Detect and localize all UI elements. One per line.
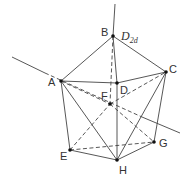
c2-axis <box>142 117 180 133</box>
point-group-label: D2d <box>120 29 139 45</box>
vertex-label-G: G <box>159 137 168 149</box>
point-group-subscript: 2d <box>130 36 139 45</box>
vertex-label-F: F <box>101 90 108 102</box>
vertex-label-H: H <box>119 164 127 176</box>
vertex-label-B: B <box>101 26 108 38</box>
edge-DC <box>117 72 166 83</box>
vertex-H <box>115 158 119 162</box>
hidden-edges <box>61 36 166 150</box>
hidden-edge-BF <box>110 36 113 104</box>
vertex-label-A: A <box>48 76 56 88</box>
edge-AB <box>61 36 113 81</box>
d2d-polyhedron-diagram: ABCDEFGH D2d <box>0 0 189 180</box>
edge-EH <box>70 150 117 160</box>
vertex-F <box>108 102 112 106</box>
diagram-svg: ABCDEFGH D2d <box>0 0 189 180</box>
edge-AD <box>61 81 117 83</box>
hidden-edge-EF <box>70 104 110 150</box>
vertex-label-E: E <box>60 150 67 162</box>
vertex-D <box>115 81 119 85</box>
edge-BD <box>113 36 117 83</box>
vertex-G <box>152 140 156 144</box>
vertex-E <box>68 148 72 152</box>
vertex-B <box>111 34 115 38</box>
hidden-edge-EG <box>70 142 154 150</box>
vertex-A <box>59 79 63 83</box>
vertex-label-C: C <box>169 63 177 75</box>
point-group-main: D <box>120 29 130 43</box>
symmetry-axes <box>12 4 180 133</box>
vertex-label-D: D <box>120 84 128 96</box>
visible-edges <box>61 36 166 160</box>
principal-axis <box>113 4 115 36</box>
vertex-C <box>164 70 168 74</box>
c2-axis <box>12 57 45 73</box>
